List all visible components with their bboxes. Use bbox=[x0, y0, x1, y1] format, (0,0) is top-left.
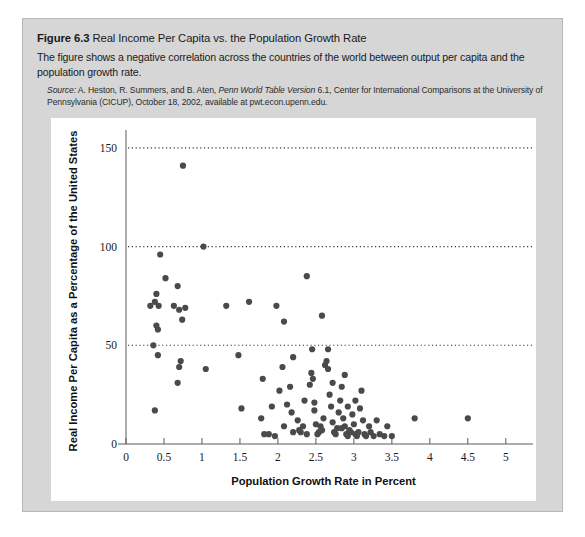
source-lead: Source: bbox=[47, 85, 76, 95]
data-point bbox=[150, 342, 156, 348]
data-point bbox=[235, 352, 241, 358]
data-point bbox=[179, 317, 185, 323]
data-point bbox=[311, 399, 317, 405]
data-point bbox=[155, 326, 161, 332]
y-axis-title: Real Income Per Capita as a Percentage o… bbox=[67, 131, 79, 452]
data-point bbox=[340, 415, 346, 421]
data-point bbox=[273, 303, 279, 309]
data-point bbox=[337, 397, 343, 403]
data-point bbox=[180, 163, 186, 169]
data-point bbox=[357, 405, 363, 411]
x-tick-label: 3.5 bbox=[385, 451, 400, 463]
data-point bbox=[258, 415, 264, 421]
data-point bbox=[279, 364, 285, 370]
data-point bbox=[330, 380, 336, 386]
data-point bbox=[290, 354, 296, 360]
data-point bbox=[358, 388, 364, 394]
data-point bbox=[307, 382, 313, 388]
scatter-plot: 050100150 00.511.522.533.544.55 Populati… bbox=[51, 118, 536, 501]
data-point bbox=[381, 433, 387, 439]
data-point bbox=[319, 427, 325, 433]
data-point bbox=[182, 305, 188, 311]
data-point bbox=[333, 431, 339, 437]
data-point bbox=[272, 433, 278, 439]
grid-lines bbox=[128, 148, 533, 345]
data-point bbox=[266, 431, 272, 437]
data-point bbox=[328, 403, 334, 409]
data-point bbox=[349, 411, 355, 417]
data-point bbox=[325, 366, 331, 372]
data-point bbox=[384, 423, 390, 429]
x-tick-label: 0.5 bbox=[157, 451, 172, 463]
data-point bbox=[330, 419, 336, 425]
x-tick-label: 3 bbox=[351, 451, 357, 463]
x-tick-label: 4.5 bbox=[461, 451, 476, 463]
data-points bbox=[147, 163, 471, 440]
chart-panel: 050100150 00.511.522.533.544.55 Populati… bbox=[51, 118, 536, 501]
figure-title: Figure 6.3 Real Income Per Capita vs. th… bbox=[37, 31, 549, 46]
data-point bbox=[310, 376, 316, 382]
data-point bbox=[276, 388, 282, 394]
data-point bbox=[345, 403, 351, 409]
data-point bbox=[300, 423, 306, 429]
data-point bbox=[290, 429, 296, 435]
data-point bbox=[156, 303, 162, 309]
data-point bbox=[309, 346, 315, 352]
data-point bbox=[360, 417, 366, 423]
data-point bbox=[366, 423, 372, 429]
data-point bbox=[223, 303, 229, 309]
data-point bbox=[311, 407, 317, 413]
data-point bbox=[325, 346, 331, 352]
data-point bbox=[147, 303, 153, 309]
data-point bbox=[301, 397, 307, 403]
data-point bbox=[326, 392, 332, 398]
data-point bbox=[295, 417, 301, 423]
data-point bbox=[355, 429, 361, 435]
data-point bbox=[374, 417, 380, 423]
data-point bbox=[176, 307, 182, 313]
data-point bbox=[246, 299, 252, 305]
data-point bbox=[152, 407, 158, 413]
data-point bbox=[153, 291, 159, 297]
y-tick-label: 0 bbox=[111, 438, 117, 450]
y-tick-label: 150 bbox=[100, 142, 118, 154]
figure-name: Real Income Per Capita vs. the Populatio… bbox=[92, 32, 366, 44]
data-point bbox=[281, 423, 287, 429]
data-point bbox=[319, 313, 325, 319]
data-point bbox=[465, 415, 471, 421]
data-point bbox=[412, 415, 418, 421]
data-point bbox=[260, 376, 266, 382]
data-point bbox=[203, 366, 209, 372]
figure-description: The figure shows a negative correlation … bbox=[37, 50, 542, 79]
data-point bbox=[287, 384, 293, 390]
data-point bbox=[389, 433, 395, 439]
source-text-a: A. Heston, R. Summers, and B. Aten, bbox=[76, 85, 218, 95]
data-point bbox=[304, 431, 310, 437]
data-point bbox=[371, 433, 377, 439]
x-tick-label: 5 bbox=[503, 451, 509, 463]
data-point bbox=[298, 429, 304, 435]
y-tick-label: 100 bbox=[100, 241, 118, 253]
data-point bbox=[175, 283, 181, 289]
x-tick-label: 2 bbox=[275, 451, 281, 463]
data-point bbox=[288, 409, 294, 415]
data-point bbox=[269, 403, 275, 409]
data-point bbox=[339, 425, 345, 431]
data-point bbox=[352, 397, 358, 403]
figure-card: Figure 6.3 Real Income Per Capita vs. th… bbox=[22, 18, 563, 512]
x-tick-label: 4 bbox=[427, 451, 433, 463]
figure-number: Figure 6.3 bbox=[37, 32, 89, 44]
data-point bbox=[175, 380, 181, 386]
data-point bbox=[323, 358, 329, 364]
x-tick-label: 1 bbox=[199, 451, 205, 463]
data-point bbox=[342, 372, 348, 378]
data-point bbox=[176, 364, 182, 370]
data-point bbox=[339, 384, 345, 390]
data-point bbox=[284, 401, 290, 407]
x-axis-title: Population Growth Rate in Percent bbox=[231, 475, 416, 487]
data-point bbox=[281, 319, 287, 325]
data-point bbox=[155, 352, 161, 358]
data-point bbox=[171, 303, 177, 309]
data-point bbox=[304, 273, 310, 279]
data-point bbox=[157, 251, 163, 257]
